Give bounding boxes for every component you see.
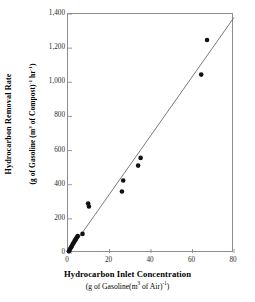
plot-canvas — [68, 14, 234, 253]
trend-line — [68, 17, 234, 253]
y-tick-label: 400 — [39, 180, 65, 188]
data-point — [87, 204, 92, 209]
x-axis-title-group: Hydrocarbon Inlet Concentration (g of Ga… — [0, 268, 255, 293]
data-points — [67, 38, 210, 254]
y-units-exp-2: -1 — [28, 80, 33, 84]
scatter-chart-figure: Hydrocarbon Removal Rate (g of Gasoline … — [0, 0, 255, 302]
y-tick-label: 1,000 — [39, 77, 65, 85]
y-tick-label: 200 — [39, 214, 65, 222]
x-axis-title: Hydrocarbon Inlet Concentration — [0, 268, 255, 280]
data-point — [80, 232, 85, 237]
y-units-part-c: hr — [28, 70, 37, 80]
y-tick-label: 0 — [39, 248, 65, 256]
x-tick-label: 20 — [97, 256, 121, 264]
y-units-part-d: ) — [28, 63, 37, 66]
x-units-part-a: (g of Gasoline(m — [86, 282, 138, 291]
x-axis-tick-labels: 020406080 — [67, 256, 247, 268]
plot-area — [67, 13, 233, 252]
y-units-part-b: of Compost) — [28, 84, 37, 126]
y-tick-label: 800 — [39, 111, 65, 119]
x-units-part-b: of Air) — [140, 282, 162, 291]
data-point — [121, 178, 126, 183]
x-tick-label: 80 — [221, 256, 245, 264]
y-tick-label: 1,400 — [39, 9, 65, 17]
data-point — [138, 156, 143, 161]
data-point — [205, 38, 210, 43]
y-units-part-a: (g of Gasoline (m — [28, 129, 37, 185]
x-units-part-c: ) — [167, 282, 170, 291]
data-point — [75, 234, 80, 239]
y-axis-tick-labels: 02004006008001,0001,2001,400 — [37, 0, 65, 260]
data-point — [120, 189, 125, 194]
x-tick-label: 40 — [138, 256, 162, 264]
x-tick-label: 0 — [55, 256, 79, 264]
x-axis-units: (g of Gasoline(m3 of Air)-1) — [0, 281, 255, 293]
data-point — [136, 163, 141, 168]
y-units-exp-1: 3 — [28, 126, 33, 129]
x-tick-label: 60 — [180, 256, 204, 264]
y-units-exp-3: -1 — [28, 66, 33, 70]
y-tick-label: 600 — [39, 146, 65, 154]
y-axis-title: Hydrocarbon Removal Rate — [4, 34, 16, 214]
data-point — [199, 72, 204, 77]
y-tick-label: 1,200 — [39, 43, 65, 51]
y-axis-title-group: Hydrocarbon Removal Rate (g of Gasoline … — [0, 0, 38, 260]
